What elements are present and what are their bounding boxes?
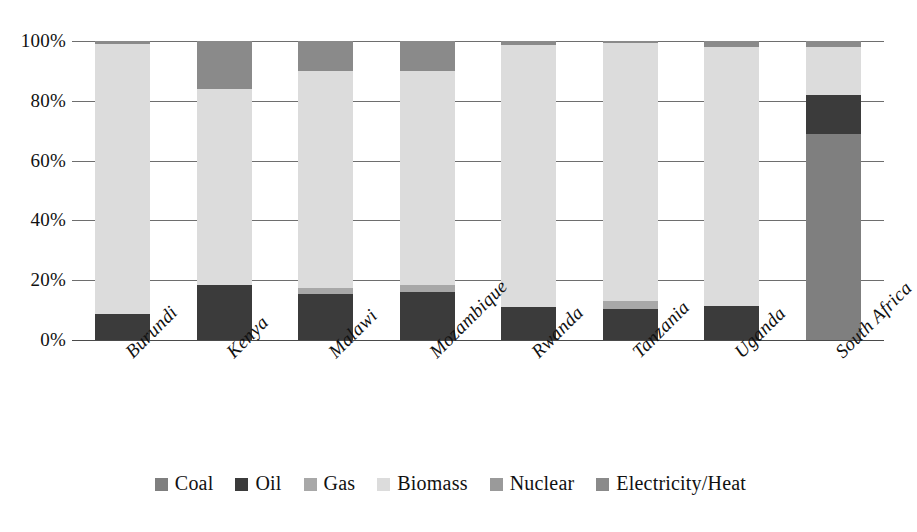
legend-item[interactable]: Biomass [377, 472, 467, 495]
bar-column[interactable] [197, 41, 252, 340]
bar-segment[interactable] [197, 89, 252, 285]
legend-swatch-icon [490, 478, 503, 491]
legend-label: Biomass [397, 472, 467, 495]
y-axis-tick-label: 40% [4, 210, 66, 229]
legend-label: Nuclear [510, 472, 575, 495]
x-axis-tick: Kenya [174, 341, 276, 456]
bar-segment[interactable] [95, 44, 150, 314]
bar-segment[interactable] [806, 134, 861, 340]
legend-item[interactable]: Nuclear [490, 472, 575, 495]
y-axis-tick-label: 100% [4, 31, 66, 50]
legend-swatch-icon [155, 478, 168, 491]
bar-segment[interactable] [704, 47, 759, 306]
legend-swatch-icon [596, 478, 609, 491]
y-axis-tick-label: 20% [4, 270, 66, 289]
y-axis-tick-label: 80% [4, 91, 66, 110]
legend-swatch-icon [304, 478, 317, 491]
chart-legend: CoalOilGasBiomassNuclearElectricity/Heat [0, 472, 901, 495]
bar-segment[interactable] [400, 71, 455, 285]
x-axis-tick: Tanzania [580, 341, 682, 456]
legend-label: Electricity/Heat [616, 472, 746, 495]
bar-column[interactable] [400, 41, 455, 340]
legend-swatch-icon [377, 478, 390, 491]
bar-column[interactable] [806, 41, 861, 340]
bar-segment[interactable] [501, 45, 556, 307]
bar-segment[interactable] [603, 43, 658, 301]
bar-segment[interactable] [400, 285, 455, 292]
legend-label: Gas [324, 472, 356, 495]
legend-item[interactable]: Gas [304, 472, 356, 495]
legend-item[interactable]: Coal [155, 472, 214, 495]
y-axis: 0%20%40%60%80%100% [0, 41, 66, 340]
legend-label: Oil [255, 472, 281, 495]
bar-column[interactable] [298, 41, 353, 340]
x-axis-tick: Uganda [681, 341, 783, 456]
bar-column[interactable] [95, 41, 150, 340]
x-axis-tick: Burundi [72, 341, 174, 456]
y-axis-tick-label: 60% [4, 151, 66, 170]
bar-column[interactable] [704, 41, 759, 340]
x-axis-tick: Malawi [275, 341, 377, 456]
x-axis-tick: South Africa [783, 341, 885, 456]
legend-item[interactable]: Oil [235, 472, 281, 495]
legend-item[interactable]: Electricity/Heat [596, 472, 746, 495]
bar-column[interactable] [603, 41, 658, 340]
x-axis-labels: BurundiKenyaMalawiMozambiqueRwandaTanzan… [72, 341, 884, 456]
bar-column[interactable] [501, 41, 556, 340]
bar-segment[interactable] [298, 41, 353, 71]
x-axis-tick: Rwanda [478, 341, 580, 456]
bar-segment[interactable] [400, 41, 455, 71]
bar-segment[interactable] [806, 95, 861, 134]
y-axis-tick-label: 0% [4, 330, 66, 349]
bar-segment[interactable] [806, 47, 861, 95]
bar-segment[interactable] [298, 71, 353, 288]
bar-segment[interactable] [197, 41, 252, 89]
legend-label: Coal [175, 472, 214, 495]
legend-swatch-icon [235, 478, 248, 491]
x-axis-tick: Mozambique [377, 341, 479, 456]
bar-segment[interactable] [603, 301, 658, 309]
